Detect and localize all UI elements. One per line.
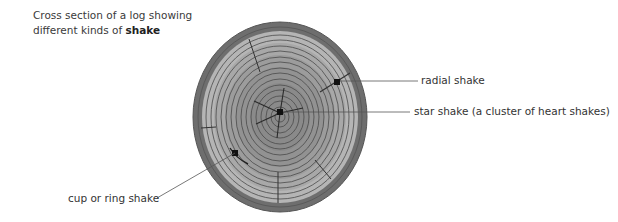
label-radial-shake: radial shake bbox=[421, 74, 485, 86]
label-cup-shake: cup or ring shake bbox=[68, 192, 159, 204]
radial-shake-marker bbox=[334, 79, 340, 85]
label-star-shake: star shake (a cluster of heart shakes) bbox=[414, 105, 610, 117]
star-shake-marker bbox=[277, 109, 283, 115]
